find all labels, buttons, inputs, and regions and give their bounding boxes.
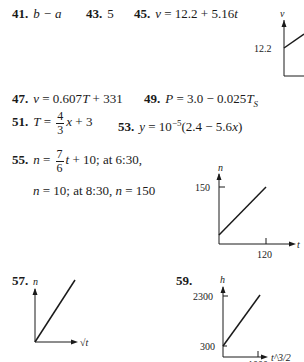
graph-55: n 150 120 t: [195, 163, 295, 260]
answer-47: 47.v = 0.607T + 331: [12, 91, 123, 107]
y-axis-label: n: [33, 276, 38, 287]
fraction: 43: [56, 110, 64, 136]
y-axis-label: v: [280, 8, 285, 19]
answer-45: 45.v = 12.2 + 5.16t: [134, 6, 238, 22]
answer-49: 49.P = 3.0 − 0.025TS: [144, 91, 258, 109]
x-axis-label: t: [297, 239, 300, 250]
y-axis-label: n: [218, 162, 223, 173]
answer-55-line2: n = 10; at 8:30, n = 150: [33, 183, 155, 199]
y-tick-label: 300: [200, 341, 215, 352]
answer-55: 55.n = 76t + 10; at 6:30,: [12, 148, 142, 174]
y-tick-label: 12.2: [254, 43, 272, 54]
y-tick-label: 150: [195, 182, 210, 193]
graph-57: n √t: [30, 277, 100, 349]
answer-51: 51.T = 43x + 3: [12, 110, 92, 136]
graph-59: h 2300 300 1000 t^3/2: [195, 275, 304, 362]
fraction: 76: [56, 148, 64, 174]
x-axis-label: t^3/2: [271, 352, 291, 362]
y-tick-label: 2300: [193, 291, 213, 302]
graph-45: v 12.2: [255, 10, 304, 80]
answer-41: 41.b − a: [12, 6, 62, 22]
x-tick-label: 120: [257, 249, 272, 260]
answer-53: 53.y = 10−5(2.4 − 5.6x): [118, 118, 242, 135]
x-axis-label: √t: [80, 337, 88, 348]
answer-43: 43.5: [86, 6, 114, 22]
y-axis-label: h: [220, 274, 225, 285]
